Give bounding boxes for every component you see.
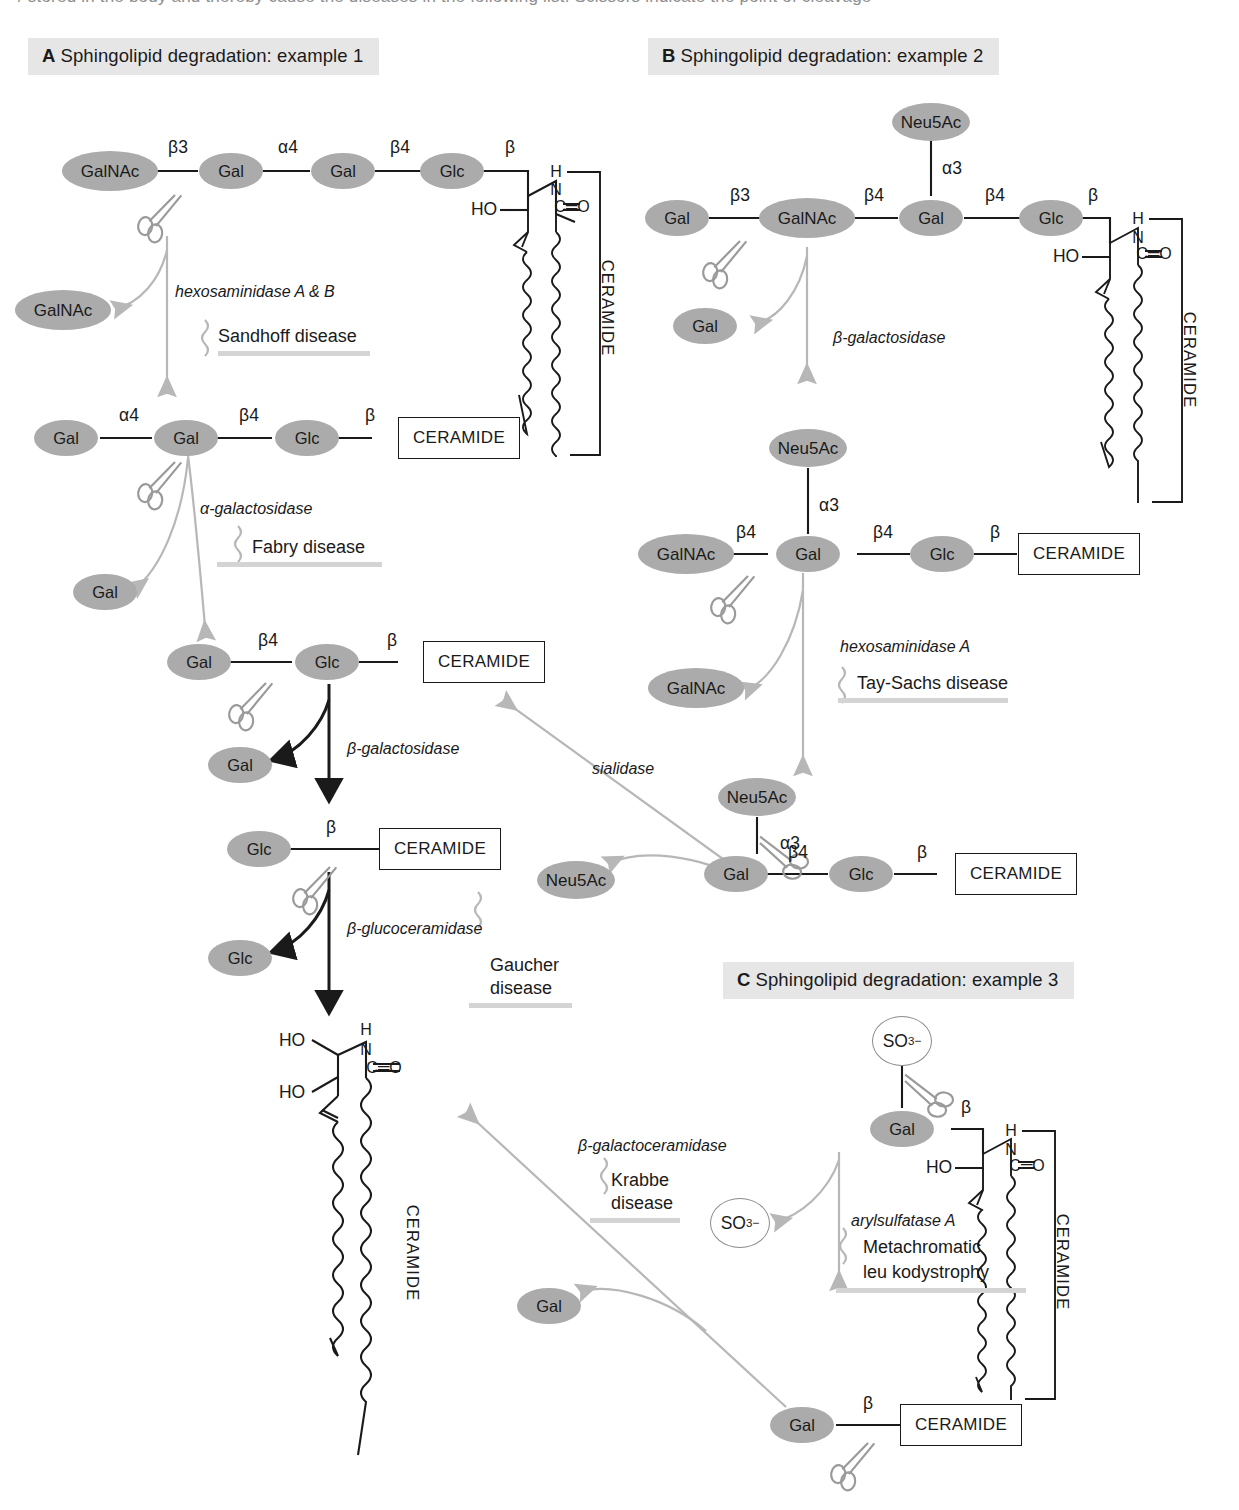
- panel-letter-c: C: [737, 969, 750, 990]
- enzyme-label-hexosaminidase-ab: hexosaminidase A & B: [175, 283, 335, 301]
- sugar-node-neu5ac: Neu5Ac: [769, 429, 847, 467]
- sugar-node-gal: Gal: [899, 200, 963, 236]
- disease-label-mld-line2: leu kodystrophy: [863, 1262, 989, 1283]
- ceramide-box: CERAMIDE: [955, 853, 1077, 895]
- panel-letter-a: A: [42, 45, 55, 66]
- hydroxyl-label-ho: HO: [1053, 248, 1079, 266]
- enzyme-label-beta-galactosidase: β-galactosidase: [833, 329, 945, 347]
- figure-canvas: / stored in the body and thereby cause t…: [0, 0, 1239, 1510]
- linkage-label-b: β: [387, 632, 397, 650]
- sulfate-group-node: SO3−: [872, 1016, 932, 1066]
- enzyme-label-hexosaminidase-a: hexosaminidase A: [840, 638, 970, 656]
- linkage-label-b4: β4: [258, 632, 278, 650]
- disease-underline: [218, 351, 370, 356]
- sugar-node-gal: Gal: [770, 1407, 834, 1443]
- released-sugar-gal: Gal: [673, 308, 737, 344]
- ceramide-box: CERAMIDE: [398, 417, 520, 459]
- linkage-label-b4: β4: [985, 187, 1005, 205]
- disease-label-sandhoff: Sandhoff disease: [218, 326, 357, 347]
- amide-label-h: H: [1132, 211, 1144, 227]
- enzyme-label-beta-glucoceramidase: β-glucoceramidase: [347, 920, 482, 938]
- hydroxyl-label-ho: HO: [279, 1032, 305, 1050]
- sugar-node-glc: Glc: [227, 831, 291, 867]
- released-sulfate-node: SO3−: [710, 1198, 770, 1248]
- amide-label-n: N: [1132, 230, 1144, 246]
- linkage-label-b: β: [917, 844, 927, 862]
- panel-letter-b: B: [662, 45, 675, 66]
- disease-label-gaucher-line1: Gaucher: [490, 955, 559, 976]
- sugar-node-gal: Gal: [870, 1111, 934, 1147]
- panel-title-b: BSphingolipid degradation: example 2: [648, 38, 999, 75]
- panel-title-text-b: Sphingolipid degradation: example 2: [680, 45, 983, 66]
- enzyme-label-beta-galactoceramidase: β-galactoceramidase: [578, 1137, 727, 1155]
- released-sugar-galnac: GalNAc: [648, 668, 744, 708]
- panel-title-text-a: Sphingolipid degradation: example 1: [60, 45, 363, 66]
- disease-underline: [217, 562, 382, 567]
- linkage-label-b3: β3: [730, 187, 750, 205]
- sugar-node-galnac: GalNAc: [759, 198, 855, 238]
- sugar-node-glc: Glc: [910, 536, 974, 572]
- disease-label-mld-line1: Metachromatic: [863, 1237, 981, 1258]
- carbonyl-label-co: C═O: [1009, 1158, 1044, 1174]
- carbonyl-label-co: C═O: [366, 1060, 401, 1076]
- linkage-label-b: β: [1088, 187, 1098, 205]
- sugar-node-glc: Glc: [420, 153, 484, 189]
- sugar-node-gal: Gal: [167, 644, 231, 680]
- linkage-label-b4: β4: [873, 524, 893, 542]
- ceramide-vertical-label: CERAMIDE: [403, 1205, 422, 1302]
- sugar-node-galnac: GalNAc: [638, 534, 734, 574]
- sugar-node-gal: Gal: [645, 200, 709, 236]
- sulfate-label-so: SO: [721, 1213, 746, 1234]
- linkage-label-b: β: [505, 139, 515, 157]
- hydroxyl-label-ho: HO: [471, 201, 497, 219]
- sugar-node-gal: Gal: [199, 153, 263, 189]
- amide-label-n: N: [1005, 1142, 1017, 1158]
- sugar-node-neu5ac: Neu5Ac: [718, 778, 796, 816]
- sugar-node-gal: Gal: [154, 420, 218, 456]
- linkage-label-a3: α3: [942, 160, 962, 178]
- amide-label-n: N: [360, 1042, 372, 1058]
- sulfate-label-sup-minus: −: [914, 1034, 921, 1048]
- hydroxyl-label-ho: HO: [926, 1159, 952, 1177]
- disease-label-krabbe-line2: disease: [611, 1193, 673, 1214]
- disease-underline: [838, 698, 1008, 703]
- carbonyl-label-co: C═O: [1136, 246, 1171, 262]
- released-sugar-gal: Gal: [208, 747, 272, 783]
- linkage-label-b4: β4: [239, 407, 259, 425]
- ceramide-box: CERAMIDE: [900, 1404, 1022, 1446]
- ceramide-box: CERAMIDE: [423, 641, 545, 683]
- enzyme-label-beta-galactosidase: β-galactosidase: [347, 740, 459, 758]
- sugar-node-neu5ac: Neu5Ac: [892, 103, 970, 141]
- sulfate-label-so: SO: [883, 1031, 908, 1052]
- sugar-node-glc: Glc: [295, 644, 359, 680]
- ceramide-box: CERAMIDE: [1018, 533, 1140, 575]
- panel-title-c: CSphingolipid degradation: example 3: [723, 962, 1074, 999]
- linkage-label-b3: β3: [168, 139, 188, 157]
- released-sugar-gal: Gal: [73, 574, 137, 610]
- disease-underline: [836, 1288, 1026, 1293]
- linkage-label-b4: β4: [736, 524, 756, 542]
- linkage-label-a3: α3: [819, 497, 839, 515]
- released-sugar-glc: Glc: [208, 940, 272, 976]
- sugar-node-glc: Glc: [1019, 200, 1083, 236]
- linkage-label-b: β: [863, 1395, 873, 1413]
- linkage-label-b: β: [961, 1099, 971, 1117]
- released-sugar-neu5ac: Neu5Ac: [537, 861, 615, 899]
- panel-title-text-c: Sphingolipid degradation: example 3: [755, 969, 1058, 990]
- amide-label-h: H: [550, 164, 562, 180]
- hydroxyl-label-ho: HO: [279, 1084, 305, 1102]
- carbonyl-label-co: C═O: [554, 199, 589, 215]
- linkage-label-b4: β4: [864, 187, 884, 205]
- panel-title-a: ASphingolipid degradation: example 1: [28, 38, 379, 75]
- sugar-node-galnac: GalNAc: [62, 151, 158, 191]
- disease-underline: [469, 1003, 572, 1008]
- linkage-label-a4: α4: [119, 407, 139, 425]
- released-sugar-gal: Gal: [517, 1288, 581, 1324]
- amide-label-n: N: [550, 182, 562, 198]
- linkage-label-b: β: [326, 819, 336, 837]
- sugar-node-glc: Glc: [829, 856, 893, 892]
- sugar-node-gal: Gal: [704, 856, 768, 892]
- sugar-node-gal: Gal: [34, 420, 98, 456]
- ceramide-bracket-label: CERAMIDE: [1180, 312, 1199, 409]
- sulfate-label-sup-minus: −: [752, 1216, 759, 1230]
